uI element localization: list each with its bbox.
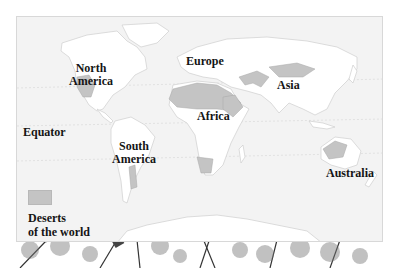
label-south-america: South America [112, 140, 156, 166]
label-australia: Australia [326, 167, 374, 180]
central-america-shape [97, 109, 113, 123]
indonesia-shape [309, 121, 335, 129]
world-map-graphic [17, 17, 383, 242]
label-asia: Asia [277, 79, 300, 92]
label-north-america: North America [69, 62, 113, 88]
madagascar-shape [239, 145, 245, 163]
world-map: North America Europe Asia Africa Equator… [16, 16, 383, 242]
label-equator: Equator [23, 126, 66, 139]
antarctica-shape [117, 215, 322, 242]
legend-desert-swatch [28, 190, 52, 205]
legend-text: Deserts of the world [28, 211, 90, 239]
kalahari-namib-desert [197, 157, 213, 173]
label-europe: Europe [186, 55, 224, 68]
label-africa: Africa [197, 110, 230, 123]
